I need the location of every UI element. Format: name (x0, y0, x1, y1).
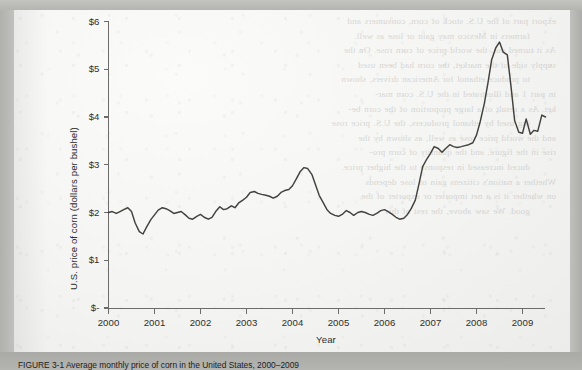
figure-caption: FIGURE 3-1 Average monthly price of corn… (18, 360, 558, 370)
corn-price-chart: $-$1$2$3$4$5$6 2000200120022003200420052… (0, 0, 582, 370)
price-line-path (109, 42, 546, 234)
price-line-series (0, 0, 582, 370)
scanned-page: export part of the U.S. stock of corn, c… (0, 0, 582, 370)
